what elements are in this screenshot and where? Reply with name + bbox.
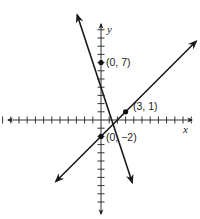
x-axis-label: x	[182, 123, 188, 135]
y-axis-label: y	[106, 23, 112, 35]
point-intersection	[123, 109, 128, 114]
point-y-intercept-line2	[98, 134, 103, 139]
line-decreasing	[77, 15, 132, 182]
point-y-intercept-line1	[98, 60, 103, 65]
point-label-0-7: (0, 7)	[106, 56, 131, 68]
point-label-0-neg2: (0, −2)	[106, 131, 137, 143]
point-label-3-1: (3, 1)	[133, 100, 158, 112]
coordinate-plane: y x (0, 7) (3, 1) (0, −2)	[0, 0, 200, 219]
